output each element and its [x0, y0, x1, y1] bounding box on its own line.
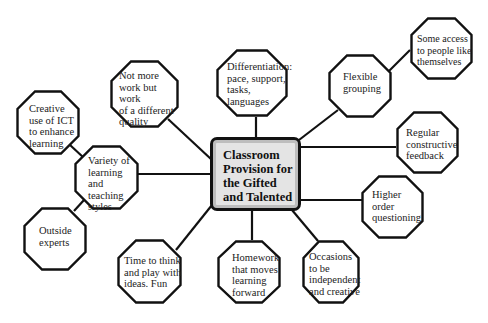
node-text-line: Regular — [406, 127, 457, 139]
node-occasions: Occasions to be independent and creative — [302, 240, 360, 304]
node-time-to-think: Time to think and play with ideas. Fun — [117, 239, 182, 304]
center-title-line: Classroom — [223, 148, 293, 162]
node-text-line: tasks, — [227, 84, 292, 96]
node-text-line: of a different — [119, 105, 179, 117]
node-text-line: that moves — [232, 264, 279, 276]
node-flexible-grouping: Flexible grouping — [328, 54, 392, 118]
center-title-line: Provision for — [223, 162, 293, 176]
node-text-line: Some access — [417, 33, 471, 45]
node-text-line: ideas. Fun — [124, 278, 181, 290]
node-text-line: languages — [227, 96, 292, 108]
node-text-line: styles — [88, 201, 139, 213]
node-text-line: learning and — [88, 167, 139, 190]
node-text-line: to be — [309, 263, 360, 275]
node-text-line: experts — [39, 237, 72, 249]
node-text-line: forward — [232, 287, 279, 299]
node-text-line: independent — [309, 274, 360, 286]
node-text-line: Differentiation: — [227, 61, 292, 73]
node-outside-experts: Outside experts — [23, 207, 87, 271]
node-text-line: constructive — [406, 139, 457, 151]
node-not-more-work: Not more work but work of a different qu… — [110, 60, 179, 128]
node-text-line: Flexible — [343, 71, 381, 83]
center-title-line: and Talented — [223, 190, 293, 204]
node-text-line: Higher — [372, 189, 421, 201]
node-text-line: use of ICT — [29, 115, 74, 127]
node-text-line: order — [372, 201, 421, 213]
node-some-access: Some access to people like themselves — [410, 17, 473, 80]
line-occasions — [292, 210, 318, 241]
node-text-line: to enhance — [29, 126, 74, 138]
node-text-line: Outside — [39, 225, 72, 237]
node-text-line: Variety of — [88, 155, 139, 167]
node-text-line: Occasions — [309, 251, 360, 263]
node-text-line: feedback — [406, 150, 457, 162]
node-homework: Homework that moves learning forward — [217, 240, 281, 304]
node-text-line: learning — [232, 275, 279, 287]
node-text-line: learning — [29, 138, 74, 150]
node-regular-feedback: Regular constructive feedback — [396, 111, 459, 174]
node-differentiation: Differentiation: pace, support, tasks, l… — [216, 49, 288, 117]
node-text-line: teaching — [88, 190, 139, 202]
node-text-line: Creative — [29, 103, 74, 115]
node-text-line: to people like — [417, 45, 471, 57]
node-text-line: quality — [119, 116, 179, 128]
node-text-line: grouping — [343, 83, 381, 95]
node-text-line: pace, support, — [227, 73, 292, 85]
center-title-line: the Gifted — [223, 176, 293, 190]
node-text-line: Not more — [119, 70, 179, 82]
node-text-line: and creative — [309, 286, 360, 298]
node-creative-ict: Creative use of ICT to enhance learning — [16, 90, 80, 155]
node-text-line: and play with — [124, 267, 181, 279]
node-higher-order: Higher order questioning — [361, 175, 424, 239]
node-text-line: themselves — [417, 56, 471, 68]
node-variety: Variety of learning and teaching styles — [74, 145, 139, 210]
node-text-line: work but work — [119, 82, 179, 105]
node-text-line: Time to think — [124, 255, 181, 267]
center-node: Classroom Provision for the Gifted and T… — [210, 137, 301, 211]
node-text-line: Homework — [232, 252, 279, 264]
node-text-line: questioning — [372, 212, 421, 224]
